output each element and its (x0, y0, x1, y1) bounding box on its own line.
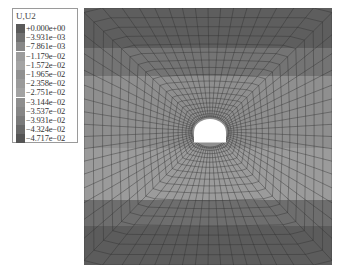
legend-swatch (16, 52, 25, 61)
legend-swatch (16, 98, 25, 107)
legend-label: −4.717e−02 (26, 133, 65, 143)
legend-swatch (16, 88, 25, 97)
contour-plot (84, 8, 332, 265)
legend-title: U,U2 (16, 11, 36, 21)
legend-entry: −4.717e−02 (16, 134, 78, 143)
legend-swatch (16, 79, 25, 88)
legend-swatch (16, 33, 25, 42)
legend-swatch (16, 42, 25, 51)
legend-swatch (16, 24, 25, 33)
legend-swatch (16, 70, 25, 79)
contour-legend: U,U2 +0.000e+00−3.931e−03−7.861e−03−1.17… (12, 8, 78, 143)
legend-swatch (16, 125, 25, 134)
fea-mesh (84, 8, 332, 265)
legend-swatch (16, 116, 25, 125)
legend-swatch (16, 107, 25, 116)
legend-swatch (16, 134, 25, 143)
legend-swatch (16, 61, 25, 70)
